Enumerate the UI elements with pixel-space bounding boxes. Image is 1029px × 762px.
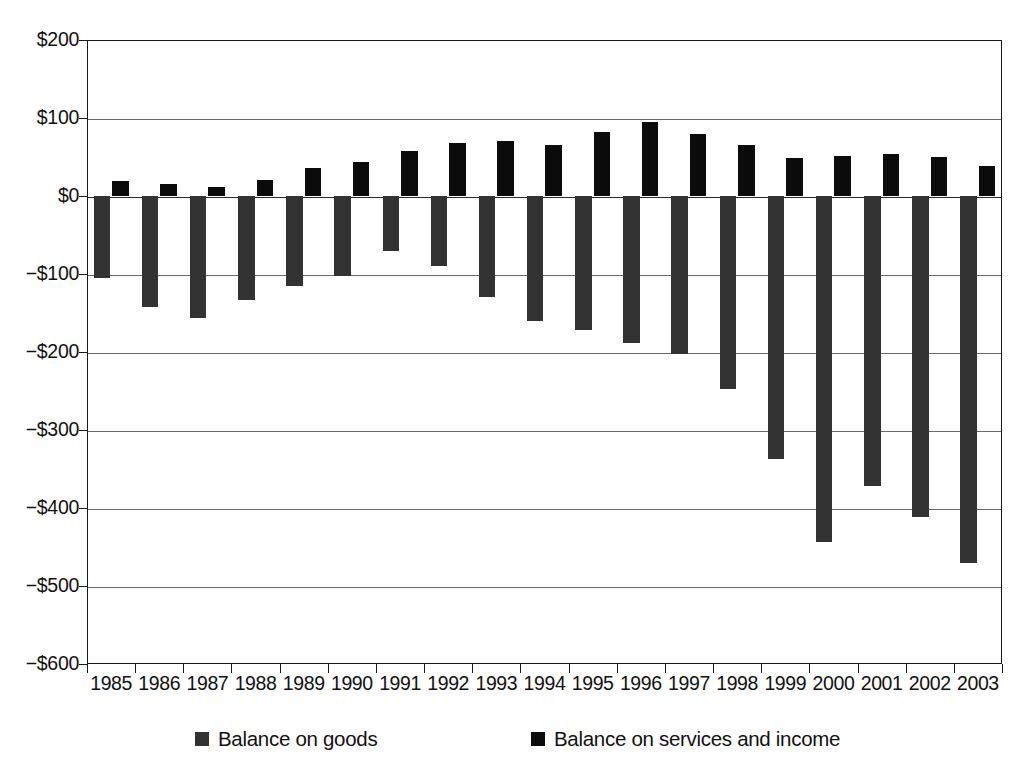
gridline--400 — [88, 509, 1001, 510]
y-axis-tick-label: −$100 — [5, 264, 79, 284]
x-axis-tick-label-1987: 1987 — [183, 674, 231, 694]
legend-swatch-icon — [531, 732, 545, 746]
x-axis-tick-label-1993: 1993 — [472, 674, 520, 694]
x-axis-tick-mark — [906, 664, 907, 673]
chart-container: $200$100$0−$100−$200−$300−$400−$500−$600… — [0, 0, 1029, 762]
y-axis-tick-label: $100 — [5, 108, 79, 128]
x-axis-tick-label-1988: 1988 — [231, 674, 279, 694]
x-axis-tick-mark — [280, 664, 281, 673]
x-axis-tick-mark — [858, 664, 859, 673]
gridline--300 — [88, 431, 1001, 432]
legend-item-goods: Balance on goods — [195, 726, 377, 752]
x-axis-tick-label-1997: 1997 — [665, 674, 713, 694]
legend-item-services-and-income: Balance on services and income — [531, 726, 840, 752]
x-axis-tick-label-1999: 1999 — [761, 674, 809, 694]
x-axis-tick-label-1992: 1992 — [424, 674, 472, 694]
x-axis-tick-mark — [761, 664, 762, 673]
x-axis-tick-label-1994: 1994 — [520, 674, 568, 694]
gridline-100 — [88, 119, 1001, 120]
gridline--200 — [88, 353, 1001, 354]
x-axis-tick-mark — [713, 664, 714, 673]
plot-area — [87, 40, 1002, 664]
x-axis-tick-mark — [520, 664, 521, 673]
x-axis-tick-mark — [376, 664, 377, 673]
y-axis-tick-label: −$500 — [5, 576, 79, 596]
x-axis-tick-label-1995: 1995 — [569, 674, 617, 694]
x-axis-tick-mark — [87, 664, 88, 673]
x-axis-tick-label-2002: 2002 — [906, 674, 954, 694]
x-axis-tick-label-1985: 1985 — [87, 674, 135, 694]
gridline--500 — [88, 587, 1001, 588]
x-axis-tick-mark — [328, 664, 329, 673]
y-axis-tick-label: −$300 — [5, 420, 79, 440]
y-axis-tick-label: $0 — [5, 186, 79, 206]
x-axis-tick-label-1986: 1986 — [135, 674, 183, 694]
x-axis-tick-label-2003: 2003 — [954, 674, 1002, 694]
y-axis-tick-label: −$400 — [5, 498, 79, 518]
x-axis-tick-mark — [617, 664, 618, 673]
legend-swatch-icon — [195, 732, 209, 746]
y-axis: $200$100$0−$100−$200−$300−$400−$500−$600 — [0, 0, 79, 762]
legend-label: Balance on goods — [218, 729, 377, 750]
x-axis-tick-label-2000: 2000 — [809, 674, 857, 694]
x-axis-tick-mark — [231, 664, 232, 673]
x-axis-tick-mark — [135, 664, 136, 673]
x-axis-tick-mark — [1002, 664, 1003, 673]
x-axis-tick-mark — [569, 664, 570, 673]
legend-label: Balance on services and income — [554, 729, 840, 750]
x-axis-tick-label-1998: 1998 — [713, 674, 761, 694]
y-axis-tick-label: −$200 — [5, 342, 79, 362]
x-axis-tick-label-1991: 1991 — [376, 674, 424, 694]
y-axis-tick-label: −$600 — [5, 654, 79, 674]
x-axis-tick-mark — [809, 664, 810, 673]
x-axis-tick-mark — [472, 664, 473, 673]
x-axis-tick-mark — [954, 664, 955, 673]
x-axis-tick-label-1996: 1996 — [617, 674, 665, 694]
x-axis-tick-mark — [665, 664, 666, 673]
chart-legend: Balance on goodsBalance on services and … — [87, 726, 1002, 754]
x-axis-tick-label-1990: 1990 — [328, 674, 376, 694]
x-axis-tick-label-1989: 1989 — [280, 674, 328, 694]
x-axis-tick-mark — [424, 664, 425, 673]
x-axis-tick-label-2001: 2001 — [858, 674, 906, 694]
gridline-0 — [88, 197, 1001, 198]
y-axis-tick-label: $200 — [5, 30, 79, 50]
x-axis-tick-mark — [183, 664, 184, 673]
gridline--100 — [88, 275, 1001, 276]
